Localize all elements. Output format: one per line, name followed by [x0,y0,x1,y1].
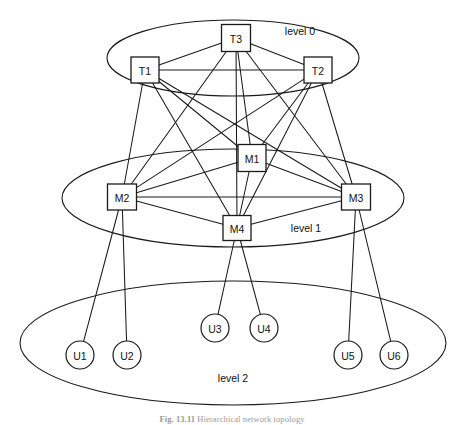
level-label-level-1: level 1 [291,222,322,234]
node-u5[interactable]: U5 [334,341,362,369]
node-t2[interactable]: T2 [304,57,332,83]
node-shape-t1[interactable] [131,57,159,83]
node-u4[interactable]: U4 [250,314,278,342]
node-m4[interactable]: M4 [223,216,251,241]
edge-m4-u3 [218,241,234,315]
edge-m3-m4 [251,201,342,225]
node-shape-u5[interactable] [334,341,362,369]
edge-t2-m3 [322,83,352,184]
node-shape-m3[interactable] [342,184,371,210]
node-shape-m2[interactable] [108,184,137,210]
node-u6[interactable]: U6 [380,341,408,369]
node-u1[interactable]: U1 [66,341,94,369]
node-shape-t2[interactable] [304,57,332,83]
edge-m4-u4 [240,241,260,315]
node-u3[interactable]: U3 [201,314,229,342]
node-shape-m1[interactable] [238,145,266,172]
edge-t1-m2 [124,83,142,184]
edge-m1-m4 [240,172,249,216]
node-t1[interactable]: T1 [131,57,159,83]
node-m2[interactable]: M2 [108,184,137,210]
level-label-level-0: level 0 [285,25,316,37]
node-shape-u1[interactable] [66,341,94,369]
node-t3[interactable]: T3 [222,25,251,52]
level-label-level-2: level 2 [218,372,249,384]
node-shape-u3[interactable] [201,314,229,342]
node-shape-u6[interactable] [380,341,408,369]
node-m3[interactable]: M3 [342,184,371,210]
node-shape-m4[interactable] [223,216,251,241]
edge-t3-m1 [238,52,250,145]
edge-t3-m4 [236,52,237,216]
node-u2[interactable]: U2 [113,341,141,369]
edge-t1-t3 [159,43,222,65]
edge-m3-u6 [359,210,391,341]
node-m1[interactable]: M1 [238,145,266,172]
edge-m2-m4 [137,201,224,224]
figure-caption-title: Hierarchical network topology [197,414,304,424]
topology-diagram: T3T1T2M1M2M3M4U1U2U3U4U5U6 level 0level … [0,0,464,425]
node-shape-t3[interactable] [222,25,251,52]
figure-caption: Fig. 13.11 Hierarchical network topology [0,414,464,424]
figure-caption-number: Fig. 13.11 [159,414,195,424]
edge-t2-t3 [251,44,305,65]
figure-root: T3T1T2M1M2M3M4U1U2U3U4U5U6 level 0level … [0,0,464,425]
node-shape-u2[interactable] [113,341,141,369]
node-shape-u4[interactable] [250,314,278,342]
edge-m3-u5 [349,210,356,341]
edge-m1-m3 [266,163,342,191]
edge-m2-u2 [122,210,126,341]
